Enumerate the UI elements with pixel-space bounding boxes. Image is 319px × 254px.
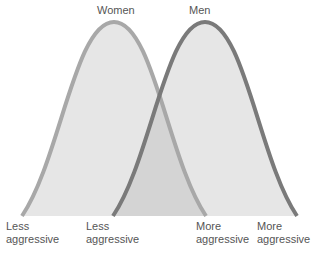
men-less-aggressive-label: Less aggressive — [86, 220, 139, 246]
men-label: Men — [189, 4, 210, 16]
distribution-diagram — [0, 0, 319, 254]
women-label: Women — [97, 4, 135, 16]
women-more-aggressive-label: More aggressive — [196, 220, 249, 246]
men-more-aggressive-label: More aggressive — [257, 220, 310, 246]
women-less-aggressive-label: Less aggressive — [6, 220, 59, 246]
